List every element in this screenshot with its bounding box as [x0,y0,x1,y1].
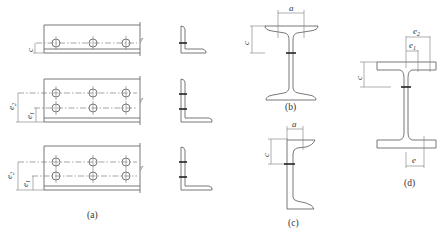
dim-label-e1: e1 [24,112,35,119]
dim-label-e2: e2 [413,26,420,37]
caption-b: (b) [285,102,296,113]
dim-label-e2: e2 [6,103,17,110]
panel-a-row1-angle [179,26,206,53]
caption-a: (a) [87,210,98,221]
dim-label-c: c [261,153,271,157]
dim-label-e1: e1 [20,180,31,187]
caption-d: (d) [404,178,415,189]
panel-a-row2-angle [179,79,212,122]
panel-b-ibeam: a c [241,3,318,100]
panel-a-row3-angle [179,147,212,190]
dim-label-e1: e1 [409,40,416,51]
panel-a-row1-plate: c [25,22,143,56]
steel-sections-diagram: c e2 e1 [0,0,445,236]
panel-d-hsection: e2 e1 c e [354,26,436,168]
panel-a-row3-plate: e2 e1 [4,143,143,193]
caption-c: (c) [288,218,299,229]
dim-label-c: c [354,76,364,80]
dim-label-c: c [25,48,35,52]
dim-label-c: c [241,41,251,45]
panel-c-channel: a c [261,119,315,209]
dim-label-e: e [412,155,416,165]
dim-label-a: a [289,3,294,13]
dim-label-e2: e2 [4,172,15,179]
dim-label-a: a [292,119,297,129]
panel-a-row2-plate: e2 e1 [6,76,143,125]
